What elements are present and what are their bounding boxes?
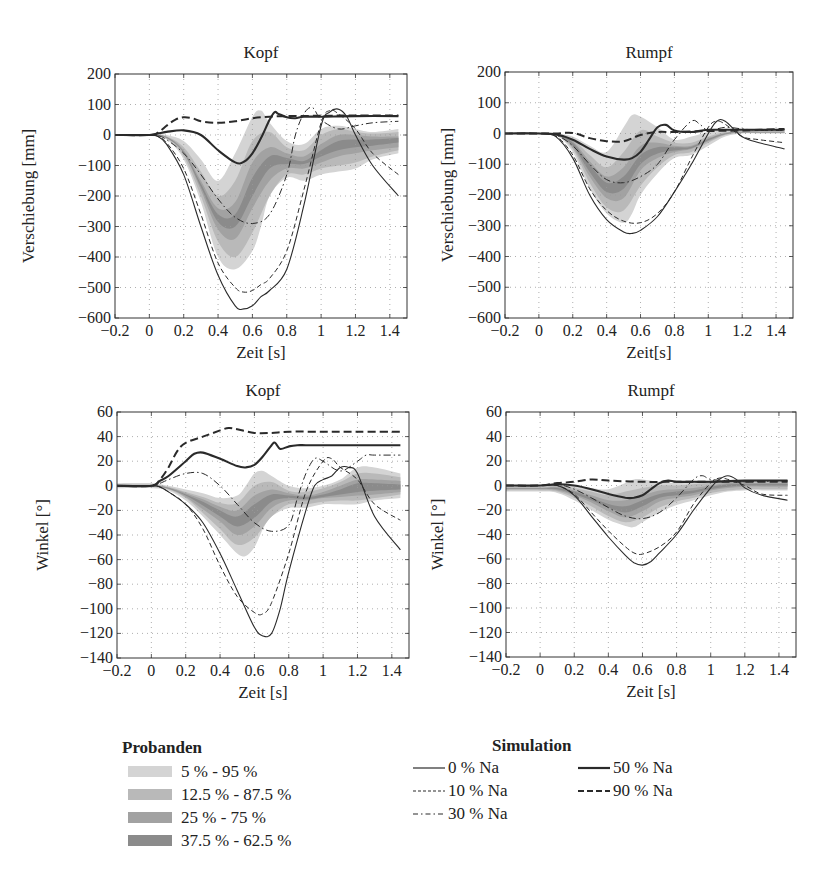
y-tick-label: −500: [78, 279, 111, 296]
chart-bottom-left: Kopf−0.200.20.40.60.811.21.46040200−20−4…: [33, 381, 409, 702]
y-tick-label: −500: [468, 278, 501, 295]
x-tick-label: 0.4: [208, 322, 228, 339]
x-tick-label: 0: [145, 322, 153, 339]
y-tick-label: −20: [88, 501, 113, 518]
legend-label: 37.5 % - 62.5 %: [181, 831, 291, 851]
chart-bottom-right: Rumpf−0.200.20.40.60.811.21.46040200−20−…: [428, 381, 796, 701]
x-tick-label: 0.2: [564, 661, 584, 678]
y-tick-label: 0: [493, 125, 501, 142]
y-tick-label: −600: [468, 309, 501, 326]
x-axis-label: Zeit [s]: [626, 682, 676, 701]
x-axis-label: Zeit [s]: [236, 343, 286, 362]
y-tick-label: 100: [477, 94, 501, 111]
line-solid-thick-icon: [577, 763, 611, 773]
y-tick-label: −400: [78, 248, 111, 265]
legend-item: 12.5 % - 87.5 %: [128, 783, 291, 806]
chart-top-right: Rumpf−0.200.20.40.60.811.21.42001000−100…: [438, 43, 793, 362]
x-tick-label: 1.4: [766, 322, 786, 339]
y-axis-label: Verschiebung [mm]: [19, 129, 38, 264]
y-tick-label: −200: [468, 186, 501, 203]
x-tick-label: 0.6: [244, 662, 264, 679]
y-tick-label: 200: [87, 65, 111, 82]
x-axis-label: Zeit[s]: [626, 343, 671, 362]
x-tick-label: 1: [704, 322, 712, 339]
x-tick-label: 1.2: [732, 322, 752, 339]
y-tick-label: 20: [97, 452, 113, 469]
y-tick-label: −80: [88, 575, 113, 592]
band-swatch-37-62: [128, 835, 172, 846]
legend-item: 90 % Na: [577, 779, 672, 802]
legend-label: 12.5 % - 87.5 %: [181, 785, 291, 805]
grid: [117, 412, 409, 658]
y-tick-label: −40: [477, 526, 502, 543]
figure-canvas: Kopf−0.200.20.40.60.811.21.42001000−100−…: [0, 0, 830, 720]
y-tick-label: −20: [477, 501, 502, 518]
legend-label: 50 % Na: [613, 758, 672, 778]
y-tick-label: −60: [88, 551, 113, 568]
band-swatch-25-75: [128, 812, 172, 823]
y-tick-label: −120: [80, 624, 113, 641]
x-tick-label: 0.6: [631, 322, 651, 339]
legend-item: 30 % Na: [412, 802, 507, 825]
y-tick-label: 200: [477, 63, 501, 80]
axes-frame: [505, 72, 793, 318]
y-tick-label: 0: [105, 477, 113, 494]
legend-item: 37.5 % - 62.5 %: [128, 829, 291, 852]
x-tick-label: 0.6: [242, 322, 262, 339]
y-tick-label: −600: [78, 309, 111, 326]
legend-item: 0 % Na: [412, 756, 507, 779]
x-tick-label: 0: [535, 322, 543, 339]
y-tick-label: 0: [494, 477, 502, 494]
x-tick-label: 0: [147, 662, 155, 679]
legend-label: 0 % Na: [448, 758, 499, 778]
y-tick-label: −100: [469, 599, 502, 616]
legend-item: 10 % Na: [412, 779, 507, 802]
y-tick-label: 60: [97, 403, 113, 420]
y-tick-label: 60: [486, 403, 502, 420]
x-tick-label: 0.8: [277, 322, 297, 339]
y-tick-label: 40: [486, 428, 502, 445]
y-tick-label: 20: [486, 452, 502, 469]
grid: [506, 412, 796, 657]
x-tick-label: 1: [317, 322, 325, 339]
x-tick-label: 0.2: [174, 322, 194, 339]
band-swatch-12-87: [128, 789, 172, 800]
chart-title: Kopf: [244, 43, 279, 62]
x-tick-label: 0.8: [279, 662, 299, 679]
y-tick-label: −40: [88, 526, 113, 543]
band-swatch-5-95: [128, 766, 172, 777]
x-tick-label: 0.4: [598, 661, 618, 678]
x-tick-label: 1: [707, 661, 715, 678]
legend-label: 25 % - 75 %: [181, 808, 266, 828]
x-tick-label: 0.8: [667, 661, 687, 678]
y-tick-label: −400: [468, 248, 501, 265]
y-tick-label: −100: [78, 157, 111, 174]
y-tick-label: −100: [80, 600, 113, 617]
y-tick-label: −120: [469, 624, 502, 641]
x-tick-label: 1.2: [347, 662, 367, 679]
y-axis-label: Winkel [°]: [33, 499, 52, 571]
legend-probanden-title: Probanden: [122, 738, 291, 758]
legend-label: 5 % - 95 %: [181, 762, 257, 782]
grid: [505, 72, 793, 318]
legend-item: 25 % - 75 %: [128, 806, 291, 829]
x-axis-label: Zeit [s]: [238, 683, 288, 702]
percentile-bands: [506, 479, 788, 527]
chart-top-left: Kopf−0.200.20.40.60.811.21.42001000−100−…: [19, 43, 407, 362]
x-tick-label: 1.4: [382, 662, 402, 679]
x-tick-label: 0.2: [563, 322, 583, 339]
line-dashdot-thin-icon: [412, 809, 446, 819]
x-tick-label: 1: [319, 662, 327, 679]
line-dashed-thin-icon: [412, 786, 446, 796]
x-tick-label: 1.2: [345, 322, 365, 339]
line-solid-thin-icon: [412, 763, 446, 773]
x-tick-label: 1.4: [380, 322, 400, 339]
chart-title: Rumpf: [627, 381, 675, 400]
y-tick-label: 100: [87, 96, 111, 113]
x-tick-label: 0.6: [632, 661, 652, 678]
chart-title: Kopf: [246, 381, 281, 400]
legend-item: 50 % Na: [577, 756, 672, 779]
x-tick-label: 0.4: [210, 662, 230, 679]
y-tick-label: −100: [468, 155, 501, 172]
y-tick-label: −60: [477, 550, 502, 567]
